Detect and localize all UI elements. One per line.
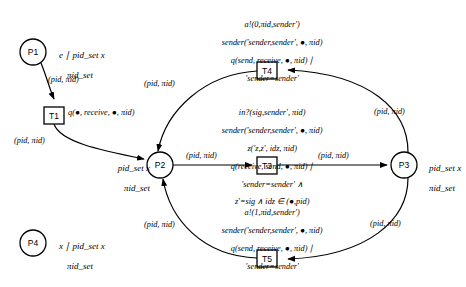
t5-guard-line-2: sender(′sender,sender′, ●, πid) — [222, 226, 323, 235]
t3-guard-line-5: ′sender=sender′ ∧ — [241, 180, 303, 189]
arc-label-t5-p2: (pid, πid) — [144, 221, 175, 230]
arc-label-t1-p2: (pid, πid) — [14, 137, 45, 146]
place-p4-annotation-line1: x ∣ pid_set x — [59, 241, 105, 251]
t5-guard-line-1: a!(1,πid,sender′) — [245, 208, 300, 217]
t3-guard-line-2: sender(′sender,sender′, ●, πid) — [222, 126, 323, 135]
petri-net-diagram: P1 P2 P3 P4 T1 T4 T3 T5 e ∣ pid_set x πi… — [0, 0, 466, 287]
place-p2-label: P2 — [150, 160, 170, 170]
place-p3-label: P3 — [394, 160, 414, 170]
place-p3-annotation: pid_set x πid_set — [420, 154, 461, 203]
t4-guard-line-3: q(send, receive, ●, πid) ∣ — [231, 56, 314, 65]
place-p4-label: P4 — [23, 238, 43, 248]
transition-t4-guard: a!(0,πid,sender′) sender(′sender,sender′… — [168, 12, 368, 93]
place-p1-annotation-line1: e ∣ pid_set x — [59, 50, 105, 60]
transition-t1-label: T1 — [44, 111, 64, 121]
arc-label-p2-t3: (pid, πid) — [186, 152, 217, 161]
place-p2-annotation-line1: pid_set x — [118, 163, 150, 173]
transition-t5-guard: a!(1,πid,sender′) sender(′sender,sender′… — [168, 200, 368, 281]
t3-guard-line-1: in?(sig,sender′, πid) — [239, 108, 306, 117]
arc-label-p3-t5: (pid, πid) — [370, 220, 401, 229]
place-p1-label: P1 — [23, 47, 43, 57]
t4-guard-line-2: sender(′sender,sender′, ●, πid) — [222, 38, 323, 47]
arc-label-t3-p3: (pid, πid) — [318, 152, 349, 161]
place-p4-annotation-line2: πid_set — [59, 261, 93, 271]
t5-guard-line-4: ′sender=sender′ — [245, 262, 298, 271]
t4-guard-line-4: ′sender=sender′ — [245, 74, 298, 83]
t3-guard-line-4: q(receive, send, ●, πid) ∣ — [231, 162, 314, 171]
t5-guard-line-3: q(send, receive, ●, πid) ∣ — [231, 244, 314, 253]
t4-guard-line-1: a!(0,πid,sender′) — [245, 20, 300, 29]
t3-guard-line-3: z(′z,z′, idz, πid) — [247, 144, 297, 153]
place-p2-annotation: pid_set x πid_set — [100, 154, 150, 203]
place-p2-annotation-line2: πid_set — [124, 183, 150, 193]
arc-label-t4-p2: (pid, πid) — [144, 80, 175, 89]
place-p3-annotation-line2: πid_set — [429, 183, 455, 193]
arc-label-p3-t4: (pid, πid) — [374, 108, 405, 117]
place-p4-annotation: x ∣ pid_set x πid_set — [50, 232, 105, 281]
transition-t1-guard: q(●, receive, ●, πid) — [68, 109, 134, 118]
arc-label-p1-t1: (pid, πid) — [48, 76, 79, 85]
place-p3-annotation-line1: pid_set x — [429, 163, 461, 173]
